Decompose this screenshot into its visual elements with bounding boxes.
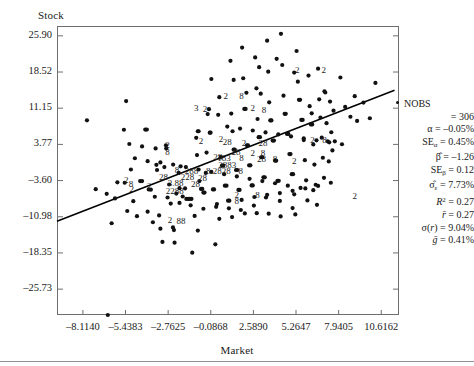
data-point <box>333 139 337 143</box>
data-point <box>190 251 194 255</box>
data-point <box>255 117 259 121</box>
data-point <box>113 196 117 200</box>
overlap-count-label: 2 <box>292 156 297 166</box>
data-point <box>122 128 126 132</box>
data-point <box>291 172 295 176</box>
data-point <box>308 104 312 108</box>
data-point <box>303 158 307 162</box>
overlap-count-label: 2828 <box>213 166 232 176</box>
data-point <box>140 144 144 148</box>
data-point <box>244 91 248 95</box>
data-point <box>314 138 318 142</box>
data-point <box>105 192 109 196</box>
data-point <box>368 116 372 120</box>
data-point <box>160 240 164 244</box>
data-point <box>273 181 277 185</box>
data-point-group <box>85 32 378 317</box>
data-point <box>224 184 228 188</box>
data-point <box>321 156 325 160</box>
data-point <box>327 140 331 144</box>
data-point <box>267 100 271 104</box>
overlap-count-label: 2 <box>168 215 173 225</box>
data-point <box>216 113 220 117</box>
data-point <box>328 99 332 103</box>
data-point <box>322 176 326 180</box>
data-point <box>306 73 310 77</box>
overlap-count-label: 2 <box>295 65 300 75</box>
overlap-count-label: 8 <box>262 105 267 115</box>
data-point <box>279 214 283 218</box>
overlap-count-label: 28 <box>223 137 233 147</box>
stat-row-beta: β̂ = –1.26 <box>404 151 474 164</box>
y-axis-tick-label: 25.90 <box>2 29 52 40</box>
data-point <box>217 95 221 99</box>
overlap-count-label: 2 <box>242 138 247 148</box>
data-point <box>303 186 307 190</box>
data-point <box>146 210 150 214</box>
stat-row-nobs-value: = 306 <box>404 111 474 124</box>
overlap-count-label: 8 <box>239 91 244 101</box>
data-point <box>189 203 193 207</box>
data-point <box>272 138 276 142</box>
overlap-count-label: 2 <box>203 104 208 114</box>
data-point <box>158 160 162 164</box>
x-axis-title: Market <box>0 344 474 356</box>
overlap-count-label: 2 <box>321 65 326 75</box>
data-point <box>286 184 290 188</box>
data-point <box>157 213 161 217</box>
data-point <box>330 148 334 152</box>
data-point <box>214 205 218 209</box>
data-point <box>329 130 333 134</box>
overlap-count-label: 8 <box>273 154 278 164</box>
data-point <box>331 109 335 113</box>
data-point <box>294 49 298 53</box>
data-point <box>208 131 212 135</box>
data-point <box>361 100 365 104</box>
data-point <box>355 119 359 123</box>
data-point <box>338 75 342 79</box>
data-point <box>193 214 197 218</box>
data-point <box>197 129 201 133</box>
stat-row-nobs: NOBS <box>404 98 474 111</box>
data-point <box>318 115 322 119</box>
data-point <box>317 97 321 101</box>
data-point <box>348 115 352 119</box>
data-point <box>269 118 273 122</box>
data-point <box>227 199 231 203</box>
data-point <box>129 167 133 171</box>
data-point <box>289 134 293 138</box>
data-point <box>140 179 144 183</box>
data-point <box>277 179 281 183</box>
overlap-count-label: 2 <box>352 191 357 201</box>
overlap-count-label: 2288 <box>166 186 185 196</box>
bottom-divider-rule <box>0 361 474 362</box>
data-point <box>284 112 288 116</box>
data-point <box>202 190 206 194</box>
data-point <box>263 175 267 179</box>
overlap-count-label: 8 <box>255 190 260 200</box>
data-point <box>151 220 155 224</box>
data-point <box>304 178 308 182</box>
y-axis-tick-label: 18.52 <box>2 65 52 76</box>
data-point <box>310 111 314 115</box>
data-point <box>301 118 305 122</box>
overlap-count-label: 8 <box>239 153 244 163</box>
data-point <box>353 94 357 98</box>
y-axis-tick-label: –25.73 <box>2 282 52 293</box>
y-axis-tick-label: –10.98 <box>2 210 52 221</box>
data-point <box>229 111 233 115</box>
data-point <box>290 189 294 193</box>
data-point <box>146 159 150 163</box>
data-point <box>124 99 128 103</box>
data-point <box>110 221 114 225</box>
data-point <box>238 126 242 130</box>
stat-row-alpha: α = –0.05% <box>404 123 474 136</box>
data-point <box>260 179 264 183</box>
chart-root: Stock 2832228282222822828282828183828822… <box>0 0 474 366</box>
y-axis-tick-label: 3.77 <box>2 137 52 148</box>
data-point <box>195 153 199 157</box>
data-point <box>85 118 89 122</box>
overlap-count-label: 88 <box>177 216 187 226</box>
data-point <box>200 187 204 191</box>
data-point <box>196 229 200 233</box>
